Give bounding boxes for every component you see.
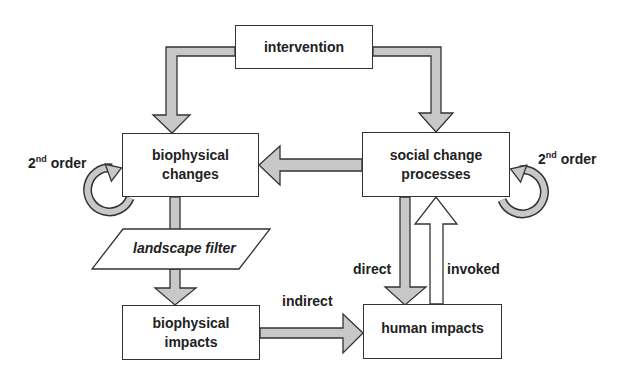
node-social-change-processes: social change processes [362,132,510,197]
node-human-impacts-label: human impacts [381,319,484,338]
node-biophysical-changes-label: biophysical changes [143,146,238,184]
arrow-filter-to-biophysical-impacts [155,269,196,305]
node-biophysical-changes: biophysical changes [122,133,259,197]
node-intervention: intervention [235,25,373,69]
arrow-intervention-to-biophysical-changes [153,47,235,133]
label-indirect: indirect [282,293,333,309]
node-human-impacts: human impacts [363,304,502,359]
arrow-intervention-to-social-change [373,47,453,132]
node-landscape-filter-label: landscape filter [133,240,236,256]
arrow-indirect [260,314,363,353]
node-intervention-label: intervention [264,38,344,57]
label-direct: direct [353,261,391,277]
label-second-order-left: 2nd order [28,154,86,171]
label-second-order-right: 2nd order [538,150,596,167]
node-biophysical-impacts: biophysical impacts [122,305,260,360]
arrow-social-to-biophysical-changes [259,146,362,185]
arrow-biophysical-to-filter [170,197,180,230]
label-invoked: invoked [447,261,500,277]
node-biophysical-impacts-label: biophysical impacts [143,314,239,352]
node-social-change-processes-label: social change processes [377,146,495,184]
arrow-direct [385,197,426,305]
